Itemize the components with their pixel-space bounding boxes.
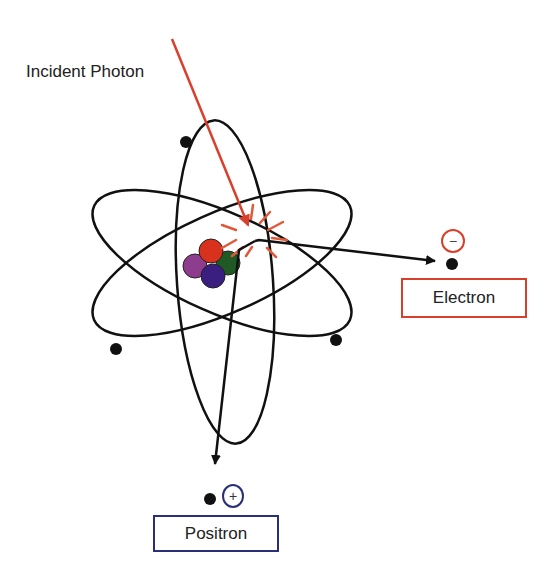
nucleon-blue xyxy=(201,264,225,288)
orbital-electron xyxy=(180,136,192,148)
electron-charge-sign: − xyxy=(449,233,457,249)
emitted-positron xyxy=(204,493,216,505)
positron-label-box: Positron xyxy=(153,515,279,552)
electron-label: Electron xyxy=(433,288,495,308)
positron-charge-sign: + xyxy=(229,488,237,504)
orbital-electron xyxy=(110,343,122,355)
electron-label-box: Electron xyxy=(401,278,527,318)
emitted-electron xyxy=(446,258,458,270)
electron-path-arrow xyxy=(255,240,435,261)
orbital-electron xyxy=(330,334,342,346)
positron-label: Positron xyxy=(185,524,247,544)
nucleus xyxy=(183,239,240,288)
nucleon-red xyxy=(199,239,223,263)
incident-photon-label: Incident Photon xyxy=(26,62,144,82)
